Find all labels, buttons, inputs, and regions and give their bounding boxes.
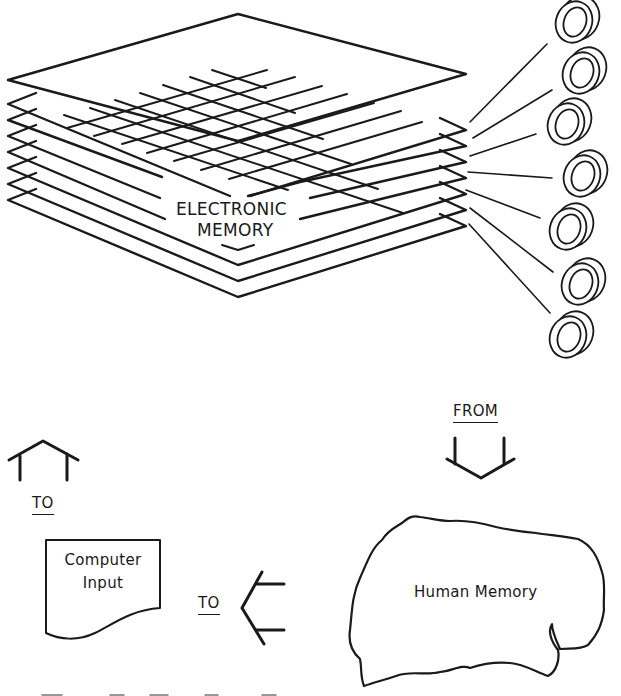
core-icon bbox=[557, 42, 612, 99]
up-arrow-icon bbox=[9, 441, 78, 480]
core-wires bbox=[466, 44, 553, 313]
core-icon bbox=[544, 198, 599, 255]
down-arrow-icon bbox=[447, 438, 514, 478]
electronic-memory-label: MEMORY bbox=[197, 220, 273, 240]
down-arrow-label: FROM bbox=[453, 402, 498, 423]
human-memory-label: Human Memory bbox=[414, 583, 537, 601]
electronic-memory-stack bbox=[8, 14, 466, 297]
core-icon bbox=[558, 145, 613, 202]
core-icon bbox=[544, 306, 599, 363]
computer-input-label: Input bbox=[48, 574, 158, 592]
electronic-memory-label: ELECTRONIC bbox=[176, 199, 287, 219]
core-icon bbox=[550, 0, 605, 48]
left-arrow-icon bbox=[242, 572, 284, 644]
left-arrow-label: TO bbox=[198, 594, 220, 615]
core-icon bbox=[556, 253, 611, 310]
human-memory-shape bbox=[349, 516, 604, 686]
up-arrow-label: TO bbox=[32, 494, 54, 515]
computer-input-label: Computer bbox=[48, 551, 158, 569]
magnetic-cores bbox=[542, 0, 613, 363]
memory-label-v-mark bbox=[222, 245, 254, 250]
core-icon bbox=[542, 93, 597, 150]
